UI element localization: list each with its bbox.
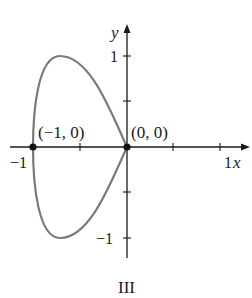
x-axis-arrow-icon xyxy=(241,144,250,151)
x-tick-label-1: 1 xyxy=(224,154,232,171)
polar-curve-chart: y x −1 1 1 −1 (−1, 0) (0, 0) III xyxy=(0,0,252,298)
annotation-origin: (0, 0) xyxy=(131,123,168,142)
x-axis-label: x xyxy=(232,153,241,172)
y-axis-label: y xyxy=(109,23,119,42)
point-origin xyxy=(123,143,130,150)
annotation-neg1-0: (−1, 0) xyxy=(38,123,84,142)
y-tick-label-1: 1 xyxy=(110,48,118,65)
point-neg1-0 xyxy=(29,143,36,150)
x-tick-label-neg1: −1 xyxy=(10,154,27,171)
y-tick-label-neg1: −1 xyxy=(96,230,113,247)
y-axis-arrow-icon xyxy=(124,24,131,33)
panel-label: III xyxy=(118,278,135,297)
